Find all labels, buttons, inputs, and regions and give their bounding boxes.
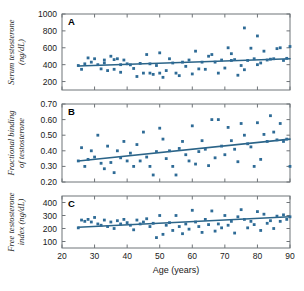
- panel-C-data-point: [253, 223, 256, 226]
- panel-B-data-point: [246, 142, 249, 145]
- panel-B-data-point: [145, 156, 148, 159]
- panel-A-data-point: [282, 59, 285, 62]
- panel-B-data-point: [256, 121, 259, 124]
- panel-B-data-point: [201, 139, 204, 142]
- figure-container: 2004006008001000ASerum testosterone(ng/d…: [0, 0, 304, 291]
- xtick-label: 60: [188, 251, 198, 261]
- panel-A-data-point: [197, 67, 200, 70]
- panel-B-data-point: [165, 157, 168, 160]
- panel-A-data-point: [149, 72, 152, 75]
- panel-A-data-point: [122, 59, 125, 62]
- panel-A-frame: [62, 14, 290, 90]
- panel-C-data-point: [256, 210, 259, 213]
- panel-C-data-point: [279, 220, 282, 223]
- panel-B-data-point: [191, 124, 194, 127]
- panel-B-data-point: [80, 146, 83, 149]
- panel-A-ytick-label: 400: [43, 60, 57, 70]
- panel-C-ytick-label: 400: [43, 198, 57, 208]
- panel-B-data-point: [207, 164, 210, 167]
- panel-C-data-point: [197, 225, 200, 228]
- panel-A-data-point: [181, 61, 184, 64]
- panel-C-data-point: [181, 232, 184, 235]
- panel-A-data-point: [142, 72, 145, 75]
- panel-C-data-point: [152, 222, 155, 225]
- panel-B-data-point: [289, 165, 292, 168]
- panel-A-data-point: [119, 71, 122, 74]
- panel-A-data-point: [217, 72, 220, 75]
- panel-A-data-point: [139, 62, 142, 65]
- panel-B-data-point: [126, 160, 129, 163]
- panel-A-data-point: [266, 59, 269, 62]
- panel-C-data-point: [227, 224, 230, 227]
- xtick-label: 70: [220, 251, 230, 261]
- panel-B-ytick-label: 0.30: [40, 161, 57, 171]
- panel-C-data-point: [80, 219, 83, 222]
- panel-C-data-point: [122, 218, 125, 221]
- xtick-label: 90: [285, 251, 295, 261]
- panel-C-data-point: [230, 220, 233, 223]
- panel-C-data-point: [126, 221, 129, 224]
- panel-C-data-point: [77, 226, 80, 229]
- panel-B-data-point: [113, 171, 116, 174]
- panel-B-data-point: [269, 114, 272, 117]
- panel-C-data-point: [87, 218, 90, 221]
- panel-A-data-point: [230, 59, 233, 62]
- panel-A-data-point: [272, 57, 275, 60]
- panel-B-data-point: [230, 139, 233, 142]
- panel-C-data-point: [106, 225, 109, 228]
- panel-C-data-point: [83, 220, 86, 223]
- panel-A-data-point: [204, 68, 207, 71]
- panel-C-data-point: [250, 220, 253, 223]
- panel-B-data-point: [243, 134, 246, 137]
- panel-C-data-point: [142, 221, 145, 224]
- panel-A-data-point: [256, 35, 259, 38]
- panel-C-data-point: [194, 221, 197, 224]
- panel-A-data-point: [90, 61, 93, 64]
- panel-letter-C: C: [68, 198, 75, 209]
- panel-C-ytick-label: 100: [43, 237, 57, 247]
- panel-B-ytick-label: 0.20: [40, 177, 57, 187]
- panel-C-data-point: [246, 226, 249, 229]
- panel-B-data-point: [236, 160, 239, 163]
- panel-B-data-point: [109, 161, 112, 164]
- panel-C-ylabel-line1: Free testosterone: [6, 192, 16, 252]
- panel-C-data-point: [214, 230, 217, 233]
- xaxis-label: Age (years): [153, 265, 200, 275]
- panel-C-data-point: [175, 214, 178, 217]
- panel-C-data-point: [282, 213, 285, 216]
- panel-C-data-point: [240, 208, 243, 211]
- panel-B-data-point: [181, 140, 184, 143]
- panel-C-data-point: [158, 214, 161, 217]
- panel-C-data-point: [139, 223, 142, 226]
- panel-A-data-point: [116, 57, 119, 60]
- panel-A-data-point: [113, 68, 116, 71]
- panel-B-ylabel-line2: of testosterone: [16, 118, 26, 168]
- panel-C-data-point: [269, 219, 272, 222]
- panel-letter-B: B: [68, 106, 75, 117]
- panel-A-data-point: [126, 62, 129, 65]
- panel-C-data-point: [220, 226, 223, 229]
- panel-B-data-point: [197, 150, 200, 153]
- xtick-label: 30: [90, 251, 100, 261]
- panel-A-data-point: [100, 67, 103, 70]
- panel-B-data-point: [279, 122, 282, 125]
- panel-A-data-point: [145, 53, 148, 56]
- panel-A-data-point: [191, 73, 194, 76]
- panel-C-data-point: [93, 216, 96, 219]
- panel-B-data-point: [253, 165, 256, 168]
- panel-C-data-point: [285, 218, 288, 221]
- panel-A-data-point: [162, 76, 165, 79]
- panel-A-data-point: [243, 68, 246, 71]
- panel-A-data-point: [230, 52, 233, 55]
- panel-B-data-point: [168, 149, 171, 152]
- panel-B-data-point: [149, 165, 152, 168]
- panel-A-data-point: [188, 59, 191, 62]
- panel-B-data-point: [227, 126, 230, 129]
- panel-A-data-point: [87, 57, 90, 60]
- panel-A-data-point: [96, 63, 99, 66]
- panel-B-data-point: [194, 163, 197, 166]
- panel-B-data-point: [142, 131, 145, 134]
- panel-B-data-point: [171, 165, 174, 168]
- panel-B-data-point: [272, 131, 275, 134]
- panel-C-data-point: [276, 215, 279, 218]
